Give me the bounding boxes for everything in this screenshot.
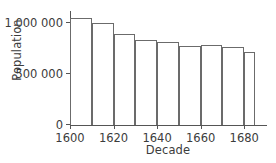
x-tick-mark [70, 125, 71, 129]
x-tick-label: 1620 [99, 131, 128, 145]
x-tick-mark [201, 125, 202, 129]
plot-area: 0500 0001 000 000 16001620164016601680 [70, 12, 266, 125]
x-tick-mark [244, 125, 245, 129]
bar [92, 23, 114, 125]
y-tick-label: 0 [56, 118, 63, 132]
x-tick-mark [157, 125, 158, 129]
bar [201, 45, 223, 125]
y-tick-label: 1 000 000 [4, 16, 63, 30]
x-tick-label: 1600 [55, 131, 84, 145]
bar [157, 42, 179, 125]
bar [70, 18, 92, 125]
x-axis-title: Decade [70, 143, 266, 157]
x-tick-label: 1640 [142, 131, 171, 145]
bar [179, 46, 201, 125]
x-tick-label: 1660 [186, 131, 215, 145]
bar [222, 47, 244, 125]
x-tick-label: 1680 [230, 131, 259, 145]
x-tick-mark [114, 125, 115, 129]
bar [135, 40, 157, 126]
bar [114, 34, 136, 125]
bar [244, 52, 255, 125]
y-tick-label: 500 000 [15, 67, 63, 81]
population-bar-chart: Population Decade 0500 0001 000 000 1600… [0, 0, 276, 163]
